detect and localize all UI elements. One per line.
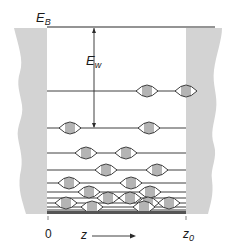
quantum-well-diagram: EB Ew 0 z z0 [0,0,237,250]
wave-packet [95,164,117,176]
well-depth-label: Ew [86,54,101,70]
wave-packet [58,177,80,189]
wave-packet [120,177,142,189]
wave-packet [115,147,137,159]
well-energy-level-plot [0,0,237,250]
wave-packet [138,122,160,134]
z-axis-arrow [92,234,136,239]
wave-packet [146,164,168,176]
end-position-label: z0 [183,228,194,243]
axis-variable-label: z [81,229,87,241]
left-barrier-wall [14,28,47,214]
wave-packet [139,186,161,198]
wave-packet [136,85,158,97]
well-depth-arrow [92,28,96,128]
wave-packets [55,85,197,213]
wave-packet [75,147,97,159]
wave-packet [97,192,119,204]
wave-packet [78,186,100,198]
wave-packet [59,122,81,134]
right-barrier-wall [186,28,222,214]
barrier-energy-label: EB [36,11,51,27]
continuum-band [47,211,186,214]
origin-label: 0 [45,228,52,240]
